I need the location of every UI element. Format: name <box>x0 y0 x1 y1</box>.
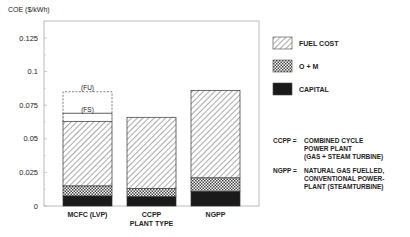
bar-segment <box>191 191 240 206</box>
y-axis-label: COE ($/kWh) <box>8 6 50 14</box>
legend: FUEL COSTO + MCAPITAL <box>273 37 339 95</box>
bar-mcfc-lvp <box>63 121 112 206</box>
y-tick-label: 0.125 <box>19 34 38 43</box>
abbreviation-notes: CCPP =COMBINED CYCLEPOWER PLANT(GAS + ST… <box>273 137 384 191</box>
x-axis-label: PLANT TYPE <box>130 220 174 227</box>
bar-segment <box>127 197 176 206</box>
bar-segment <box>63 196 112 206</box>
bar-segment <box>63 121 112 186</box>
note-line: NATURAL GAS FUELLED, <box>304 167 384 175</box>
legend-swatch <box>273 37 292 49</box>
x-tick-label: NGPP <box>206 211 226 218</box>
legend-label: FUEL COST <box>299 40 339 47</box>
x-tick-label: MCFC (LVP) <box>68 211 108 219</box>
legend-swatch <box>273 83 292 95</box>
note-line: PLANT (STEAMTURBINE) <box>304 183 383 191</box>
legend-label: CAPITAL <box>299 86 330 93</box>
legend-label: O + M <box>299 63 318 70</box>
legend-swatch <box>273 60 292 72</box>
note-abbr: NGPP = <box>273 167 297 174</box>
note-line: POWER PLANT <box>304 145 352 152</box>
note-abbr: CCPP = <box>273 137 297 144</box>
note-line: COMBINED CYCLE <box>304 137 364 144</box>
y-tick-label: 0.05 <box>23 134 38 143</box>
bar-ccpp <box>127 117 176 206</box>
bar-segment <box>63 186 112 196</box>
stacked-bar-chart: COE ($/kWh)00.0250.050.0750.10.125MCFC (… <box>0 0 410 237</box>
x-tick-label: CCPP <box>142 211 162 218</box>
plot-area: COE ($/kWh)00.0250.050.0750.10.125MCFC (… <box>8 6 259 227</box>
note-line: (GAS + STEAM TURBINE) <box>304 153 383 161</box>
annotation-label: (FS) <box>81 106 94 114</box>
y-tick-label: 0.1 <box>28 67 38 76</box>
y-tick-label: 0 <box>34 202 38 211</box>
y-tick-label: 0.075 <box>19 101 38 110</box>
bar-segment <box>191 90 240 177</box>
y-tick-label: 0.025 <box>19 168 38 177</box>
annotation-label: (FU) <box>81 84 94 92</box>
note-line: CONVENTIONAL POWER- <box>304 175 384 182</box>
bar-ngpp <box>191 90 240 206</box>
bar-segment <box>127 189 176 197</box>
bar-segment <box>191 178 240 191</box>
bar-segment <box>127 117 176 188</box>
